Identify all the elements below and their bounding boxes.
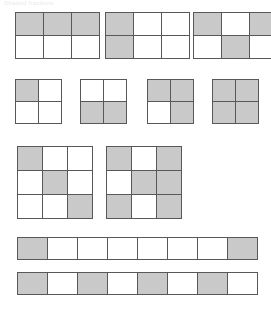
unshaded-cell[interactable]	[18, 195, 42, 218]
shaded-cell[interactable]	[213, 102, 235, 123]
unshaded-cell[interactable]	[148, 102, 170, 123]
unshaded-cell[interactable]	[78, 238, 107, 259]
unshaded-cell[interactable]	[108, 273, 137, 294]
shaded-cell[interactable]	[171, 80, 193, 101]
shaded-cell[interactable]	[44, 13, 71, 35]
unshaded-cell[interactable]	[43, 195, 67, 218]
shaded-cell[interactable]	[194, 13, 221, 35]
shaded-cell[interactable]	[106, 13, 133, 35]
shaded-cell[interactable]	[106, 36, 133, 58]
shaded-cell[interactable]	[222, 36, 249, 58]
shaded-cell[interactable]	[68, 195, 92, 218]
worksheet-canvas: Shaded fractions	[0, 0, 271, 311]
figure-row-4	[0, 237, 271, 260]
shaded-cell[interactable]	[236, 80, 258, 101]
unshaded-cell[interactable]	[108, 238, 137, 259]
figure-row-3	[0, 146, 271, 219]
unshaded-cell[interactable]	[18, 171, 42, 194]
shaded-cell[interactable]	[43, 171, 67, 194]
unshaded-cell[interactable]	[48, 273, 77, 294]
unshaded-cell[interactable]	[222, 13, 249, 35]
unshaded-cell[interactable]	[168, 273, 197, 294]
shaded-cell[interactable]	[107, 147, 131, 170]
shaded-cell[interactable]	[228, 238, 257, 259]
shaded-cell[interactable]	[138, 273, 167, 294]
unshaded-cell[interactable]	[228, 273, 257, 294]
unshaded-cell[interactable]	[48, 238, 77, 259]
unshaded-cell[interactable]	[44, 36, 71, 58]
unshaded-cell[interactable]	[43, 147, 67, 170]
shaded-cell[interactable]	[213, 80, 235, 101]
unshaded-cell[interactable]	[168, 238, 197, 259]
shaded-cell[interactable]	[72, 13, 99, 35]
strip-1	[17, 237, 258, 260]
unshaded-cell[interactable]	[16, 36, 43, 58]
grid-3	[193, 12, 271, 59]
shaded-cell[interactable]	[132, 171, 156, 194]
grid-4	[15, 79, 62, 124]
shaded-cell[interactable]	[107, 195, 131, 218]
shaded-cell[interactable]	[78, 273, 107, 294]
grid-5	[80, 79, 127, 124]
unshaded-cell[interactable]	[104, 80, 126, 101]
worksheet-header-text: Shaded fractions	[4, 0, 54, 7]
shaded-cell[interactable]	[148, 80, 170, 101]
shaded-cell[interactable]	[171, 102, 193, 123]
unshaded-cell[interactable]	[72, 36, 99, 58]
shaded-cell[interactable]	[18, 147, 42, 170]
shaded-cell[interactable]	[236, 102, 258, 123]
shaded-cell[interactable]	[198, 273, 227, 294]
figure-row-2	[0, 79, 271, 124]
unshaded-cell[interactable]	[39, 102, 61, 123]
unshaded-cell[interactable]	[132, 147, 156, 170]
unshaded-cell[interactable]	[162, 36, 189, 58]
strip-2	[17, 272, 258, 295]
unshaded-cell[interactable]	[132, 195, 156, 218]
shaded-cell[interactable]	[157, 171, 181, 194]
shaded-cell[interactable]	[16, 13, 43, 35]
unshaded-cell[interactable]	[198, 238, 227, 259]
grid-7	[212, 79, 259, 124]
shaded-cell[interactable]	[157, 195, 181, 218]
unshaded-cell[interactable]	[194, 36, 221, 58]
unshaded-cell[interactable]	[250, 36, 271, 58]
shaded-cell[interactable]	[16, 80, 38, 101]
unshaded-cell[interactable]	[107, 171, 131, 194]
unshaded-cell[interactable]	[134, 13, 161, 35]
unshaded-cell[interactable]	[81, 80, 103, 101]
shaded-cell[interactable]	[18, 238, 47, 259]
unshaded-cell[interactable]	[162, 13, 189, 35]
grid-8	[17, 146, 93, 219]
shaded-cell[interactable]	[18, 273, 47, 294]
grid-1	[15, 12, 100, 59]
shaded-cell[interactable]	[157, 147, 181, 170]
unshaded-cell[interactable]	[68, 171, 92, 194]
unshaded-cell[interactable]	[16, 102, 38, 123]
unshaded-cell[interactable]	[134, 36, 161, 58]
grid-9	[106, 146, 182, 219]
figure-row-1	[0, 12, 271, 59]
shaded-cell[interactable]	[81, 102, 103, 123]
unshaded-cell[interactable]	[39, 80, 61, 101]
grid-2	[105, 12, 190, 59]
shaded-cell[interactable]	[250, 13, 271, 35]
unshaded-cell[interactable]	[68, 147, 92, 170]
grid-6	[147, 79, 194, 124]
figure-row-5	[0, 272, 271, 295]
unshaded-cell[interactable]	[138, 238, 167, 259]
shaded-cell[interactable]	[104, 102, 126, 123]
